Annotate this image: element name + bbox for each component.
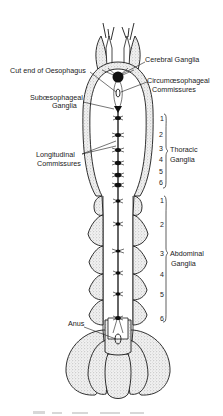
thoracic-ganglion-3 — [112, 148, 124, 152]
svg-text:4: 4 — [159, 156, 163, 163]
label-abdominal-2: Ganglia — [171, 259, 196, 268]
thoracic-brace — [163, 114, 168, 188]
svg-text:3: 3 — [159, 145, 163, 152]
label-suboesophageal-2: Ganglia — [52, 101, 77, 110]
abdominal-brace — [163, 196, 168, 322]
tail-fan — [66, 316, 170, 399]
svg-text:6: 6 — [159, 179, 163, 186]
svg-text:5: 5 — [160, 291, 164, 298]
svg-text:5: 5 — [159, 168, 163, 175]
svg-text:6: 6 — [160, 315, 164, 322]
label-longitudinal-2: Commissures — [37, 159, 81, 168]
label-circumoesophageal-1: Circumœsophageal — [147, 76, 210, 85]
abdominal-numbers: 1 2 3 4 5 6 — [160, 197, 164, 322]
caption-fragment — [33, 411, 144, 414]
label-thoracic-2: Ganglia — [170, 155, 195, 164]
label-thoracic-1: Thoracic — [170, 145, 198, 154]
cerebral-ganglion — [113, 72, 124, 83]
label-longitudinal-1: Longitudinal — [36, 150, 75, 159]
thoracic-ganglion-4 — [112, 161, 124, 165]
prawn-nervous-system-diagram: Cerebral Ganglia Cut end of Oesophagus C… — [0, 0, 223, 416]
svg-text:4: 4 — [160, 271, 164, 278]
svg-text:1: 1 — [160, 197, 164, 204]
label-cut-end-oesophagus: Cut end of Oesophagus — [10, 66, 86, 75]
thoracic-numbers: 1 2 3 4 5 6 — [159, 115, 164, 186]
thoracic-ganglion-1 — [113, 116, 123, 120]
label-cerebral-ganglia: Cerebral Ganglia — [145, 55, 199, 64]
oesophagus-cut-end — [116, 89, 120, 97]
label-abdominal-1: Abdominal — [170, 249, 204, 258]
thoracic-ganglion-5 — [112, 173, 124, 178]
thoracic-ganglion-2 — [112, 133, 124, 137]
label-circumoesophageal-2: Commissures — [152, 85, 196, 94]
svg-text:3: 3 — [160, 250, 164, 257]
svg-text:2: 2 — [160, 221, 164, 228]
thoracic-ganglion-6 — [112, 183, 124, 188]
label-anus: Anus — [68, 319, 85, 328]
svg-text:2: 2 — [159, 131, 163, 138]
svg-text:1: 1 — [160, 115, 164, 122]
